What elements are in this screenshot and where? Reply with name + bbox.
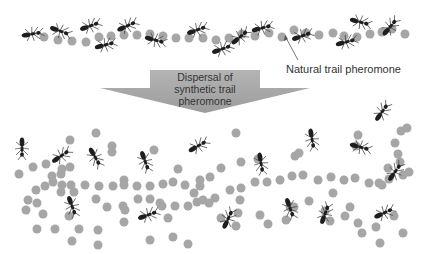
pheromone-dot-icon xyxy=(15,170,24,179)
ant-icon xyxy=(15,138,29,161)
pheromone-dot-icon xyxy=(351,174,360,183)
pheromone-dot-icon xyxy=(196,176,205,185)
natural-trail-label: Natural trail pheromone xyxy=(286,63,401,75)
pheromone-dot-icon xyxy=(305,197,314,206)
pheromone-dot-icon xyxy=(185,34,194,43)
pheromone-dot-icon xyxy=(164,214,173,223)
pheromone-dot-icon xyxy=(263,178,272,187)
pheromone-dot-icon xyxy=(95,33,104,42)
pheromone-dot-icon xyxy=(94,226,103,235)
pheromone-dot-icon xyxy=(378,181,387,190)
pheromone-dot-icon xyxy=(54,36,63,45)
pheromone-dot-icon xyxy=(237,184,246,193)
pheromone-dot-icon xyxy=(391,139,400,148)
pheromone-dot-icon xyxy=(42,160,51,169)
pheromone-dot-icon xyxy=(346,203,355,212)
pheromone-dot-icon xyxy=(51,225,60,234)
pheromone-dot-icon xyxy=(70,188,79,197)
pheromone-dot-icon xyxy=(184,202,193,211)
dispersal-label: Dispersal of synthetic trail pheromone xyxy=(150,71,260,107)
pheromone-dot-icon xyxy=(340,176,349,185)
pheromone-dot-icon xyxy=(172,34,181,43)
pheromone-dot-icon xyxy=(181,181,190,190)
ant-icon xyxy=(84,144,107,170)
pheromone-dot-icon xyxy=(33,225,42,234)
diagram-canvas xyxy=(0,0,429,254)
pheromone-dot-icon xyxy=(169,233,178,242)
dispersal-label-line2: synthetic trail pheromone xyxy=(150,83,260,107)
pheromone-dot-icon xyxy=(146,182,155,191)
pheromone-dot-icon xyxy=(265,29,274,38)
pheromone-dot-icon xyxy=(327,173,336,182)
pheromone-dot-icon xyxy=(390,212,399,221)
pheromone-dot-icon xyxy=(256,211,265,220)
pheromone-dot-icon xyxy=(146,236,155,245)
pheromone-dot-icon xyxy=(33,199,42,208)
pheromone-diagram: Natural trail pheromone Dispersal of syn… xyxy=(0,0,429,254)
ant-icon xyxy=(252,151,270,176)
pheromone-dot-icon xyxy=(32,186,41,195)
pheromone-dot-icon xyxy=(81,181,90,190)
pheromone-dot-icon xyxy=(174,165,183,174)
pheromone-dot-icon xyxy=(341,212,350,221)
pheromone-dot-icon xyxy=(206,173,215,182)
pheromone-dot-icon xyxy=(108,148,117,157)
pheromone-dot-icon xyxy=(234,209,243,218)
pheromone-dot-icon xyxy=(401,30,410,39)
pheromone-dot-icon xyxy=(376,239,385,248)
pheromone-dot-icon xyxy=(232,222,241,231)
pheromone-dot-icon xyxy=(94,241,103,250)
pheromone-dot-icon xyxy=(57,170,66,179)
pheromone-dot-icon xyxy=(146,195,155,204)
pheromone-dot-icon xyxy=(75,225,84,234)
pheromone-dot-icon xyxy=(190,189,199,198)
pheromone-dot-icon xyxy=(354,219,363,228)
pheromone-dot-icon xyxy=(366,30,375,39)
pheromone-dot-icon xyxy=(264,220,273,229)
pheromone-dot-icon xyxy=(329,29,338,38)
pheromone-dot-icon xyxy=(95,182,104,191)
pheromone-dot-icon xyxy=(41,182,50,191)
pheromone-dot-icon xyxy=(251,178,260,187)
pheromone-dot-icon xyxy=(199,196,208,205)
pheromone-dot-icon xyxy=(184,240,193,249)
pheromone-dot-icon xyxy=(288,172,297,181)
pheromone-dot-icon xyxy=(68,237,77,246)
pheromone-dot-icon xyxy=(22,206,31,215)
pheromone-dot-icon xyxy=(109,182,118,191)
pheromone-dot-icon xyxy=(251,32,260,41)
ant-icon xyxy=(348,13,373,32)
pheromone-dot-icon xyxy=(282,216,291,225)
pheromone-dot-icon xyxy=(394,150,403,159)
pheromone-dot-icon xyxy=(150,146,159,155)
pheromone-dot-icon xyxy=(299,171,308,180)
ant-icon xyxy=(136,204,162,225)
pheromone-dot-icon xyxy=(159,180,168,189)
pheromone-dot-icon xyxy=(236,196,245,205)
pheromone-dot-icon xyxy=(399,229,408,238)
pheromone-dot-icon xyxy=(103,203,112,212)
pheromone-dot-icon xyxy=(358,229,367,238)
pheromone-dot-icon xyxy=(372,223,381,232)
pheromone-dot-icon xyxy=(171,202,180,211)
ant-icon xyxy=(303,127,321,152)
pheromone-dot-icon xyxy=(365,179,374,188)
ant-icon xyxy=(185,134,211,157)
pheromone-dot-icon xyxy=(226,186,235,195)
pheromone-dot-icon xyxy=(92,129,101,138)
pheromone-dot-icon xyxy=(39,210,48,219)
pheromone-dot-icon xyxy=(403,124,412,133)
synthetic-pheromone-dots xyxy=(15,124,414,250)
pheromone-dot-icon xyxy=(134,195,143,204)
pheromone-dot-icon xyxy=(24,196,33,205)
pheromone-dot-icon xyxy=(212,36,221,45)
pheromone-dot-icon xyxy=(237,158,246,167)
pheromone-dot-icon xyxy=(232,129,241,138)
pheromone-dot-icon xyxy=(92,195,101,204)
pheromone-dot-icon xyxy=(29,163,38,172)
pheromone-dot-icon xyxy=(315,31,324,40)
pheromone-dot-icon xyxy=(57,188,66,197)
pheromone-dot-icon xyxy=(329,189,338,198)
pheromone-dot-icon xyxy=(169,178,178,187)
pheromone-dot-icon xyxy=(133,31,142,40)
